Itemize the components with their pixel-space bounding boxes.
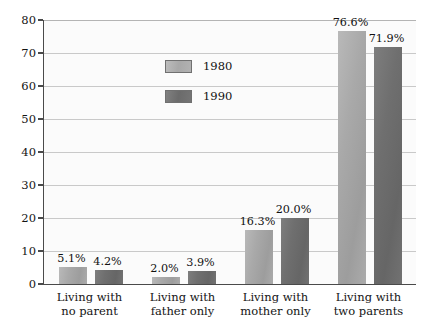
y-axis-tick-label: 40 [2, 145, 36, 159]
bar-1990-cat0[interactable] [95, 270, 123, 284]
y-axis-tick-label: 30 [2, 178, 36, 192]
bar-1990-cat2[interactable] [281, 218, 309, 284]
bar-1980-cat3[interactable] [338, 31, 366, 284]
legend-label-1980: 1980 [203, 59, 232, 73]
x-axis-label-cat2: Living withmother only [229, 290, 322, 318]
legend-swatch-1990 [165, 90, 192, 103]
bar-chart: 01020304050607080 5.1%4.2%2.0%3.9%16.3%2… [0, 0, 434, 328]
x-axis-label-cat0: Living withno parent [43, 290, 136, 318]
y-axis-tick-label: 0 [2, 277, 36, 291]
bar-1980-cat0[interactable] [59, 267, 87, 284]
x-axis-label-cat1: Living withfather only [136, 290, 229, 318]
y-axis-tick-label: 70 [2, 46, 36, 60]
bar-1980-cat1[interactable] [152, 277, 180, 284]
y-axis-tick-label: 10 [2, 244, 36, 258]
legend-swatch-1980 [165, 60, 192, 73]
y-axis-tick-label: 80 [2, 13, 36, 27]
y-axis-tick-label: 50 [2, 112, 36, 126]
bar-value-label: 20.0% [267, 203, 321, 216]
y-axis-tick-label: 20 [2, 211, 36, 225]
bar-1980-cat2[interactable] [245, 230, 273, 284]
x-axis-label-cat3: Living withtwo parents [322, 290, 415, 318]
bar-value-label: 4.2% [81, 255, 135, 268]
bar-value-label: 3.9% [174, 256, 228, 269]
bar-1990-cat3[interactable] [374, 47, 402, 284]
y-axis-tick-label: 60 [2, 79, 36, 93]
legend-label-1990: 1990 [203, 89, 232, 103]
bar-1990-cat1[interactable] [188, 271, 216, 284]
bar-value-label: 71.9% [360, 32, 414, 45]
bar-value-label: 16.3% [231, 215, 285, 228]
bar-value-label: 76.6% [324, 16, 378, 29]
